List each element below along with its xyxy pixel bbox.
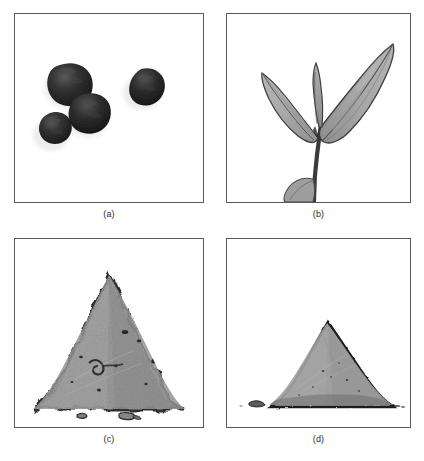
- tea-shoot-photo: [227, 14, 410, 202]
- panel-b-caption: (b): [226, 209, 411, 220]
- panel-b: (b): [226, 13, 411, 228]
- panel-b-frame: [226, 13, 411, 203]
- panel-a-caption: (a): [14, 209, 204, 220]
- panel-d-frame: [226, 238, 411, 428]
- dark-berries-photo: [15, 14, 203, 202]
- panel-c-caption: (c): [14, 434, 204, 445]
- panel-c-frame: [14, 238, 204, 428]
- panel-d: (d): [226, 238, 411, 451]
- coarse-powder-pile-photo: [15, 239, 203, 427]
- berry-center: [69, 93, 111, 134]
- panel-a: (a): [14, 13, 204, 228]
- panel-d-caption: (d): [226, 434, 411, 445]
- panel-c: (c): [14, 238, 204, 451]
- panel-a-frame: [14, 13, 204, 203]
- fine-powder-pile-photo: [227, 239, 410, 427]
- figure-root: (a): [0, 0, 424, 461]
